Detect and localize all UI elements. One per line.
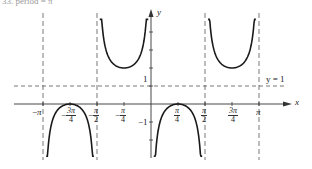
x-axis-arrow-icon bbox=[283, 102, 292, 107]
y-axis-label: y bbox=[157, 8, 161, 17]
x-tick-label: π4 bbox=[174, 107, 180, 124]
midline-label: y = 1 bbox=[266, 75, 285, 84]
x-tick-label: −π4 bbox=[115, 107, 126, 124]
y-tick-label: 1 bbox=[143, 75, 148, 84]
y-tick-label: −1 bbox=[138, 118, 148, 127]
y-axis-arrow-icon bbox=[149, 9, 154, 17]
x-tick-label: 3π4 bbox=[228, 107, 238, 124]
x-tick-label: −3π4 bbox=[61, 107, 76, 124]
x-tick-label: −π bbox=[32, 108, 42, 117]
x-axis-label: x bbox=[295, 98, 299, 107]
upper-branch-right bbox=[208, 19, 256, 68]
upper-branch-left bbox=[100, 19, 148, 68]
x-tick-label: π2 bbox=[201, 107, 207, 124]
x-tick-label: −π2 bbox=[88, 107, 99, 124]
x-tick-label: π bbox=[256, 108, 261, 117]
cosecant-graph bbox=[0, 0, 312, 169]
